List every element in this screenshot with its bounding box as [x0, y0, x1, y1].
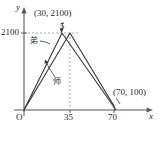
callout-arrow-di [40, 41, 50, 44]
origin-label: O [16, 113, 23, 122]
series-label-shi: 师 [53, 78, 61, 86]
y-tick-label-2100: 2100 [1, 28, 19, 37]
x-tick-label-70: 70 [108, 113, 117, 122]
y-axis-label: y [16, 3, 20, 12]
chart-figure: y x O 2100 35 70 (30, 2100) 5 (70, 100) … [0, 0, 161, 147]
leader-line-end-point [116, 98, 120, 104]
mark-label-five: 5 [60, 22, 64, 31]
point-label-70-100: (70, 100) [113, 88, 146, 97]
y-axis-arrowhead [21, 7, 26, 13]
chart-canvas [0, 0, 161, 147]
x-axis-label: x [149, 112, 153, 121]
point-label-30-2100: (30, 2100) [34, 9, 72, 18]
callout-arrow-shi [46, 62, 55, 77]
x-tick-label-35: 35 [64, 113, 73, 122]
series-label-di: 弟 [30, 37, 38, 45]
